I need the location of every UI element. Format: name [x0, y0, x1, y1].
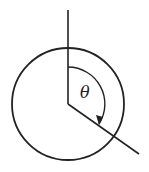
angle-diagram: θ — [0, 0, 149, 172]
angle-label: θ — [80, 83, 90, 102]
